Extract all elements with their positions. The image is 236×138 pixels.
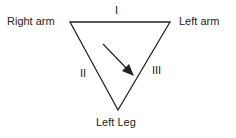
- vertex-label-left-arm: Left arm: [179, 16, 219, 27]
- axis-arrow-shaft: [103, 44, 129, 71]
- lead-label-i: I: [115, 5, 118, 16]
- vertex-label-left-leg: Left Leg: [96, 117, 136, 128]
- lead-label-iii: III: [152, 65, 161, 76]
- vertex-label-right-arm: Right arm: [7, 16, 55, 27]
- lead-label-ii: II: [80, 68, 86, 79]
- einthoven-triangle-diagram: Right arm Left arm Left Leg I II III: [0, 0, 236, 138]
